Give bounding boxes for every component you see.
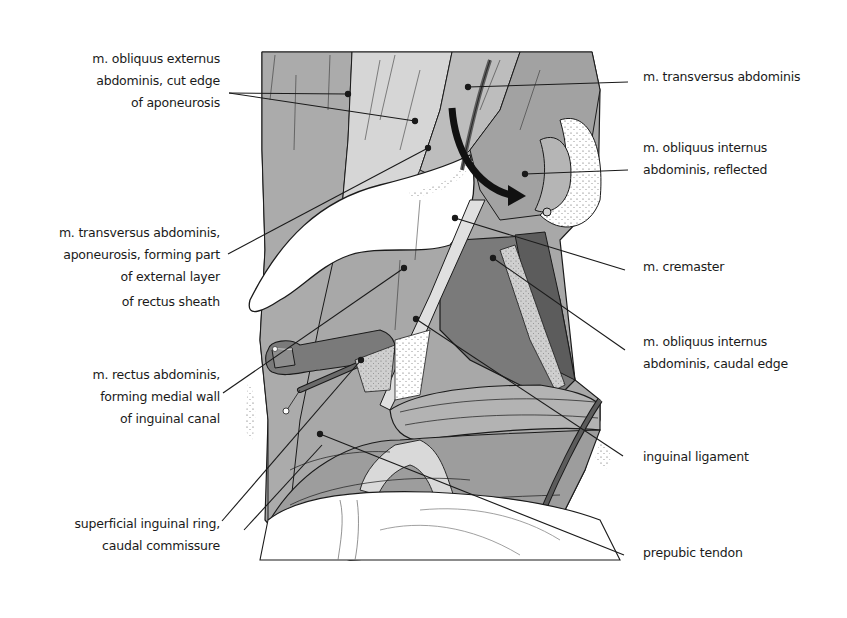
label-line: m. obliquus externus — [92, 48, 220, 70]
label-line: prepubic tendon — [643, 542, 743, 564]
label-obliquus-internus-reflected: m. obliquus internus abdominis, reflecte… — [643, 137, 767, 181]
label-line: m. obliquus internus — [643, 137, 767, 159]
label-line: caudal commissure — [74, 535, 220, 557]
label-line: m. cremaster — [643, 256, 724, 278]
label-rectus-abdominis: m. rectus abdominis, forming medial wall… — [92, 364, 220, 430]
label-line: abdominis, caudal edge — [643, 353, 788, 375]
label-line: superficial inguinal ring, — [74, 513, 220, 535]
label-line: of aponeurosis — [92, 92, 220, 114]
label-line: m. transversus abdominis, — [59, 222, 220, 244]
label-transversus-abdominis: m. transversus abdominis — [643, 66, 800, 88]
label-line: m. obliquus internus — [643, 331, 788, 353]
label-cremaster: m. cremaster — [643, 256, 724, 278]
tissue-block — [245, 52, 620, 560]
label-line: inguinal ligament — [643, 446, 749, 468]
label-line: of inguinal canal — [92, 408, 220, 430]
label-obliquus-externus: m. obliquus externus abdominis, cut edge… — [92, 48, 220, 114]
label-line: abdominis, cut edge — [92, 70, 220, 92]
label-inguinal-ligament: inguinal ligament — [643, 446, 749, 468]
label-transversus-aponeurosis: m. transversus abdominis, aponeurosis, f… — [59, 222, 220, 313]
label-line: aponeurosis, forming part — [59, 244, 220, 266]
label-prepubic-tendon: prepubic tendon — [643, 542, 743, 564]
label-superficial-inguinal-ring: superficial inguinal ring, caudal commis… — [74, 513, 220, 557]
label-line: forming medial wall — [92, 386, 220, 408]
label-line: m. rectus abdominis, — [92, 364, 220, 386]
label-line: of external layer — [59, 266, 220, 288]
label-line: of rectus sheath — [59, 291, 220, 313]
label-obliquus-internus-caudal: m. obliquus internus abdominis, caudal e… — [643, 331, 788, 375]
label-line: m. transversus abdominis — [643, 66, 800, 88]
label-line: abdominis, reflected — [643, 159, 767, 181]
